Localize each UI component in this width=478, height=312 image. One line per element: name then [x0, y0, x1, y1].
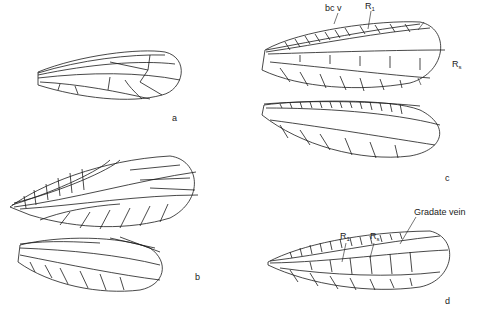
- label-gradate-vein: Gradate vein: [414, 208, 466, 217]
- label-rs-d: Rs: [370, 232, 380, 242]
- panel-label-d: d: [445, 296, 450, 306]
- panel-label-c: c: [445, 173, 450, 183]
- wing-b-hindwing: [18, 237, 162, 291]
- label-r1-d: R1: [340, 232, 350, 242]
- wing-c-forewing: [262, 22, 445, 91]
- label-bcv: bc v: [325, 4, 342, 13]
- label-rs-c: Rs: [452, 60, 462, 70]
- wing-a-forewing: [38, 51, 181, 99]
- panel-label-a: a: [172, 113, 177, 123]
- wing-diagram: [0, 0, 478, 312]
- panel-label-b: b: [195, 272, 200, 282]
- wing-c-hindwing: [262, 101, 440, 158]
- label-r1-c: R1: [365, 2, 375, 12]
- wing-d-forewing: [268, 231, 450, 290]
- wing-b-forewing: [10, 156, 198, 229]
